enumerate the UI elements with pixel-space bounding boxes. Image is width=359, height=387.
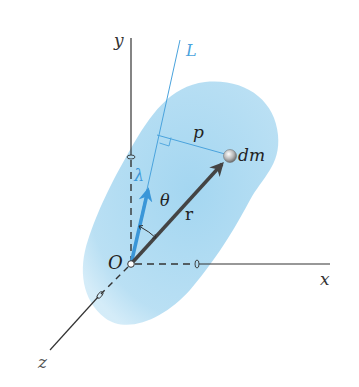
dm-label: dm <box>238 145 265 165</box>
r-label: r <box>185 204 194 224</box>
rigid-body-shape <box>83 82 278 325</box>
line-L-label: L <box>185 41 197 60</box>
origin-point <box>128 261 135 268</box>
lambda-label: λ <box>133 166 144 185</box>
mass-element-dm <box>224 150 237 163</box>
origin-label: O <box>108 252 123 273</box>
x-axis-label: x <box>320 269 330 289</box>
z-axis-label: z <box>37 352 48 372</box>
z-axis-solid <box>50 297 98 350</box>
p-label: p <box>193 122 204 142</box>
diagram-canvas: y x z O L p dm λ θ r <box>0 0 359 387</box>
theta-label: θ <box>160 191 170 210</box>
y-axis-label: y <box>113 30 124 50</box>
